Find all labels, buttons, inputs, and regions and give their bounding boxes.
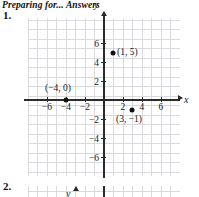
y-tick-label: 6: [94, 39, 99, 49]
x-tick-label: −2: [80, 102, 90, 112]
x-tick-label: 4: [140, 102, 145, 112]
y-tick-mark: [101, 157, 106, 158]
y-axis-arrow-icon-2: [73, 186, 79, 191]
y-axis-label: y: [94, 0, 98, 10]
textbook-page: Preparing for... Answers 1. −6 −4 −2 2 4…: [0, 0, 199, 197]
y-tick-label: −2: [89, 115, 99, 125]
y-axis-line: [103, 12, 104, 178]
y-tick-mark: [101, 119, 106, 120]
data-point-1-5: [111, 50, 116, 55]
y-tick-label: −6: [89, 153, 99, 163]
x-tick-label: 6: [159, 102, 164, 112]
x-axis-label: x: [184, 94, 188, 105]
y-axis-line-2: [103, 186, 104, 197]
y-tick-mark: [101, 81, 106, 82]
y-tick-label: 4: [94, 58, 99, 68]
problem-number-1: 1.: [3, 9, 11, 21]
data-point-neg4-0: [63, 98, 68, 103]
data-point-label-3-neg1: (3, −1): [116, 114, 142, 124]
data-point-label-1-5: (1, 5): [117, 47, 138, 57]
x-tick-label: 2: [121, 102, 126, 112]
y-tick-label: 2: [94, 77, 99, 87]
data-point-3-neg1: [130, 107, 135, 112]
y-tick-label: −4: [89, 134, 99, 144]
y-tick-mark: [101, 138, 106, 139]
coordinate-plane-graph-2: [28, 186, 180, 197]
x-tick-label: −6: [42, 102, 52, 112]
y-tick-mark: [101, 62, 106, 63]
problem-number-2: 2.: [3, 180, 11, 192]
y-axis-label-2: y: [66, 188, 70, 197]
coordinate-plane-graph-1: −6 −4 −2 2 4 6 6 4 2 −2 −4 −6 x y (1, 5)…: [28, 18, 180, 176]
x-axis-arrow-icon: [178, 95, 183, 101]
y-tick-mark: [101, 43, 106, 44]
y-axis-arrow-icon: [101, 11, 107, 16]
x-tick-label: −4: [61, 102, 71, 112]
data-point-label-neg4-0: (−4, 0): [45, 83, 71, 93]
